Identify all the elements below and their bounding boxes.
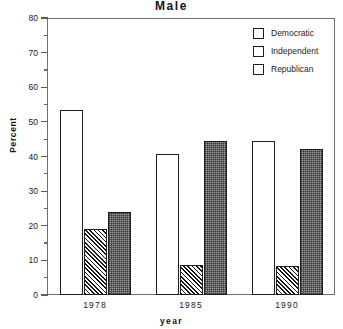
legend-swatch-democratic [253,28,264,39]
y-tick-label: 20 [12,221,38,231]
legend-item-independent: Independent [253,46,318,57]
legend-item-democratic: Democratic [253,28,318,39]
legend-label: Independent [271,47,318,56]
x-tick-label: 1990 [275,300,299,310]
bar-democratic-1985 [156,154,179,295]
chart-legend: DemocraticIndependentRepublican [253,28,318,75]
legend-swatch-independent [253,46,264,57]
legend-item-republican: Republican [253,64,318,75]
y-tick-minor [44,173,48,174]
legend-label: Republican [271,65,314,74]
y-tick-minor [44,242,48,243]
bar-chart: Male Percent 01020304050607080 197819851… [0,0,343,329]
y-tick-major [41,191,48,192]
y-tick-label: 0 [12,290,38,300]
bar-independent-1985 [180,265,203,295]
y-tick-major [41,294,48,295]
y-tick-major [41,52,48,53]
legend-swatch-republican [253,64,264,75]
x-axis-label: year [0,316,343,326]
chart-title: Male [0,0,343,13]
x-tick-label: 1985 [179,300,203,310]
y-tick-major [41,260,48,261]
bar-republican-1990 [300,149,323,295]
bar-democratic-1990 [252,141,275,295]
y-tick-minor [44,69,48,70]
y-tick-major [41,156,48,157]
y-tick-minor [44,208,48,209]
y-tick-label: 60 [12,82,38,92]
y-tick-minor [44,139,48,140]
y-tick-minor [44,35,48,36]
bar-democratic-1978 [60,110,83,295]
bar-republican-1978 [108,212,131,295]
y-tick-label: 80 [12,13,38,23]
legend-label: Democratic [271,29,314,38]
y-tick-label: 70 [12,48,38,58]
bar-independent-1990 [276,266,299,295]
y-tick-minor [44,104,48,105]
y-tick-label: 50 [12,117,38,127]
bar-republican-1985 [204,141,227,295]
y-tick-major [41,121,48,122]
x-tick-label: 1978 [83,300,107,310]
y-tick-label: 10 [12,255,38,265]
y-tick-label: 30 [12,186,38,196]
y-tick-major [41,17,48,18]
y-tick-minor [44,277,48,278]
y-tick-major [41,225,48,226]
y-tick-major [41,87,48,88]
bar-independent-1978 [84,229,107,295]
y-tick-label: 40 [12,152,38,162]
